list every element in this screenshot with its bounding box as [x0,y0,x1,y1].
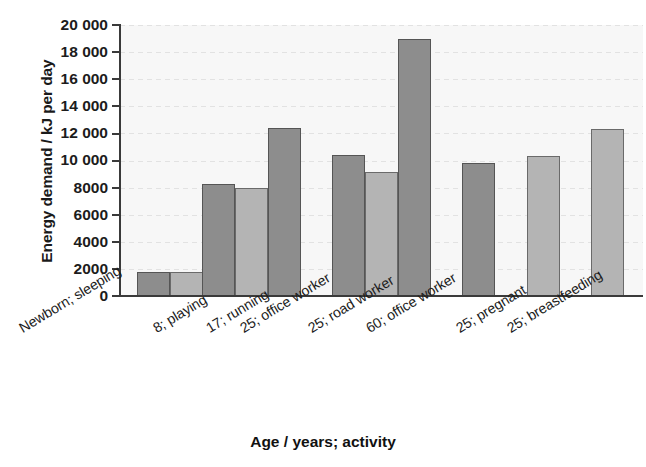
y-tick-label-14000: 14 000 [0,98,108,114]
y-tick-label-6000: 6000 [0,207,108,223]
bar [202,184,235,296]
bar [137,272,170,296]
bar [268,128,301,296]
y-tick-label-16000: 16 000 [0,71,108,87]
gridline-18000 [120,52,643,53]
gridline-12000 [120,133,643,134]
y-axis-line [119,24,121,297]
x-tick-label-8-playing: 8; playing [150,291,209,335]
bar [235,188,268,296]
y-axis-tick-labels: 20 000 18 000 16 000 14 000 12 000 10 00… [0,0,108,467]
bar-chart-figure: Energy demand / kJ per day 20 000 18 000… [0,0,646,467]
y-tick-label-4000: 4000 [0,234,108,250]
bar [527,156,560,296]
gridline-20000 [120,25,643,26]
bar [462,163,495,296]
gridline-16000 [120,79,643,80]
y-tick-label-8000: 8000 [0,180,108,196]
gridline-10000 [120,161,643,162]
y-tick-label-2000: 2000 [0,261,108,277]
y-tick-label-10000: 10 000 [0,152,108,168]
x-axis-title: Age / years; activity [0,433,646,451]
bar [332,155,365,296]
gridline-14000 [120,106,643,107]
bar [398,39,431,296]
y-tick-label-20000: 20 000 [0,17,108,33]
y-tick-label-12000: 12 000 [0,125,108,141]
plot-area [120,25,643,296]
y-tick-label-18000: 18 000 [0,44,108,60]
